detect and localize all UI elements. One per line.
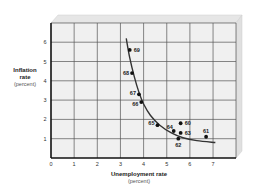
data-point bbox=[128, 48, 132, 52]
phillips-curve-chart: 01234567 123456 60616263646566676869 Inf… bbox=[0, 0, 254, 190]
data-point-label: 65 bbox=[148, 120, 154, 126]
x-tick-label: 7 bbox=[212, 161, 215, 167]
x-tick-labels: 01234567 bbox=[49, 161, 214, 167]
y-tick-label: 6 bbox=[43, 39, 46, 45]
data-point-label: 66 bbox=[132, 101, 138, 107]
y-axis-title-line1: Inflation bbox=[13, 67, 37, 73]
data-point-label: 67 bbox=[130, 90, 136, 96]
y-tick-label: 5 bbox=[43, 59, 46, 65]
data-point bbox=[139, 100, 143, 104]
x-tick-label: 5 bbox=[165, 161, 168, 167]
x-tick-label: 0 bbox=[49, 161, 52, 167]
data-point bbox=[179, 131, 183, 135]
data-point-label: 68 bbox=[123, 70, 129, 76]
y-tick-label: 3 bbox=[43, 97, 46, 103]
x-tick-label: 2 bbox=[96, 161, 99, 167]
data-point bbox=[137, 92, 141, 96]
y-tick-labels: 123456 bbox=[43, 39, 46, 142]
data-point-label: 61 bbox=[203, 128, 209, 134]
x-tick-label: 4 bbox=[142, 161, 145, 167]
x-tick-label: 1 bbox=[73, 161, 76, 167]
data-point bbox=[176, 137, 180, 141]
x-tick-label: 3 bbox=[119, 161, 122, 167]
y-axis-subtitle: (percent) bbox=[14, 81, 36, 87]
box-top-face bbox=[51, 15, 242, 23]
box-right-face bbox=[236, 15, 242, 158]
y-tick-label: 4 bbox=[43, 78, 46, 84]
data-point-label: 63 bbox=[185, 130, 191, 136]
data-point bbox=[156, 123, 160, 127]
data-point bbox=[179, 121, 183, 125]
data-point-label: 60 bbox=[185, 120, 191, 126]
data-point-label: 69 bbox=[134, 47, 140, 53]
x-axis-subtitle: (percent) bbox=[128, 178, 150, 184]
data-point-label: 64 bbox=[167, 124, 174, 130]
y-tick-label: 2 bbox=[43, 116, 46, 122]
data-point bbox=[130, 71, 134, 75]
y-tick-label: 1 bbox=[43, 136, 46, 142]
y-axis-title-line2: rate bbox=[19, 74, 31, 80]
data-point bbox=[204, 135, 208, 139]
x-axis-title: Unemployment rate bbox=[111, 171, 168, 177]
data-point-label: 62 bbox=[175, 142, 181, 148]
x-tick-label: 6 bbox=[188, 161, 191, 167]
